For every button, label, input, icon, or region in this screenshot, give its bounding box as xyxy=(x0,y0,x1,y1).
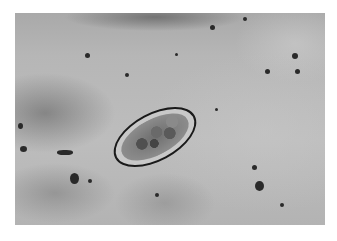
micrograph-image xyxy=(15,13,325,225)
debris-speck xyxy=(295,69,300,74)
debris-speck xyxy=(88,179,92,183)
debris-speck xyxy=(125,73,129,77)
debris-speck xyxy=(243,17,247,21)
debris-speck xyxy=(265,69,270,74)
debris-speck xyxy=(215,108,218,111)
parasite-egg xyxy=(104,95,206,180)
debris-speck xyxy=(210,25,215,30)
debris-speck xyxy=(18,123,23,129)
debris-speck xyxy=(85,53,90,58)
egg-contents xyxy=(114,104,196,171)
debris-speck xyxy=(20,146,27,152)
debris-speck xyxy=(252,165,257,170)
debris-speck xyxy=(292,53,298,59)
debris-speck xyxy=(175,53,178,56)
debris-speck xyxy=(280,203,284,207)
debris-speck xyxy=(70,173,79,184)
debris-speck xyxy=(255,181,264,191)
debris-speck xyxy=(57,150,73,155)
debris-speck xyxy=(155,193,159,197)
